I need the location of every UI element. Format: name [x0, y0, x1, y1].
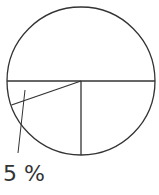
slice-label-5pct: 5 % [3, 163, 45, 185]
slice-5pct-edge [12, 81, 82, 105]
